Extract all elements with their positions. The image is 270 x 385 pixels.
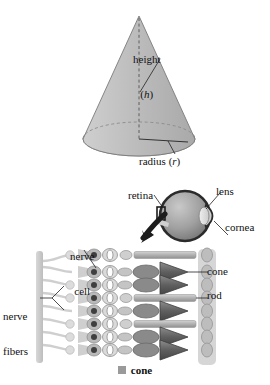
legend-swatch-cone bbox=[118, 366, 126, 374]
receptor-row bbox=[43, 340, 213, 360]
inner-nucleus bbox=[107, 332, 113, 342]
cone-height-label-line2: (h) bbox=[133, 89, 161, 101]
nerve-cell-label: nerve cell bbox=[70, 228, 94, 320]
receptor-inner-body bbox=[120, 294, 132, 303]
receptor-inner-body bbox=[118, 268, 132, 276]
inner-nucleus bbox=[107, 280, 113, 290]
nerve-cell-nucleus bbox=[91, 347, 97, 353]
nerve-cell-nucleus bbox=[91, 321, 97, 327]
epithelium-cell bbox=[202, 304, 213, 318]
nerve-fibers-label-line1: nerve bbox=[3, 311, 28, 323]
receptor-inner-body bbox=[120, 320, 132, 329]
cornea-label: cornea bbox=[225, 222, 254, 234]
nerve-fiber-branch bbox=[43, 267, 72, 272]
receptor-row bbox=[43, 327, 213, 347]
cone-inner-segment bbox=[133, 343, 159, 357]
receptor-row bbox=[43, 317, 213, 331]
figure-canvas: height (h) radius (r) bbox=[0, 0, 270, 385]
retina-leader-line bbox=[154, 195, 161, 205]
rod-callout-label: rod bbox=[207, 290, 222, 302]
receptor-inner-body bbox=[120, 251, 132, 260]
cone-outer-segment bbox=[160, 275, 188, 295]
cone-radius-label: radius (r) bbox=[139, 156, 180, 168]
inner-nucleus bbox=[107, 319, 113, 329]
bipolar-cell-body bbox=[66, 333, 74, 341]
receptor-inner-body bbox=[118, 307, 132, 315]
cone-inner-segment bbox=[133, 304, 159, 318]
cone-outer-segment bbox=[160, 340, 188, 360]
rod-outer-segment bbox=[134, 321, 196, 328]
nerve-cell-label-line1: nerve bbox=[70, 251, 94, 263]
nerve-fibers-leader-line bbox=[40, 286, 64, 310]
cone-inner-segment bbox=[133, 278, 159, 292]
nerve-fibers-label-line2: fibers bbox=[3, 346, 28, 358]
receptor-row bbox=[43, 262, 213, 282]
cone-inner-segment bbox=[133, 265, 159, 279]
epithelium-cell bbox=[202, 343, 213, 357]
rod-outer-segment bbox=[134, 252, 196, 259]
lens-shape bbox=[199, 207, 209, 225]
cone-inner-segment bbox=[133, 330, 159, 344]
cone-height-label-line1: height bbox=[133, 54, 161, 66]
synaptic-terminal bbox=[78, 344, 88, 356]
inner-nucleus bbox=[107, 293, 113, 303]
epithelium-cell bbox=[202, 317, 213, 331]
receptor-row bbox=[43, 248, 213, 262]
lens-label: lens bbox=[216, 186, 234, 198]
legend-label-cone: cone bbox=[131, 364, 152, 376]
cone-callout-label: cone bbox=[207, 266, 228, 278]
retina-label: retina bbox=[128, 190, 153, 202]
nerve-cell-label-line2: cell bbox=[70, 286, 94, 298]
inner-nucleus bbox=[107, 306, 113, 316]
receptor-inner-body bbox=[118, 346, 132, 354]
bipolar-cell-body bbox=[66, 320, 74, 328]
legend: cone bbox=[0, 364, 270, 376]
nerve-cell-nucleus bbox=[91, 334, 97, 340]
receptor-inner-body bbox=[118, 281, 132, 289]
receptor-inner-body bbox=[118, 333, 132, 341]
rod-outer-segment bbox=[134, 295, 196, 302]
synaptic-terminal bbox=[78, 331, 88, 343]
bipolar-cell-body bbox=[66, 346, 74, 354]
cone-outer-segment bbox=[160, 301, 188, 321]
epithelium-cell bbox=[202, 248, 213, 262]
inner-nucleus bbox=[107, 345, 113, 355]
cone-height-label: height (h) bbox=[133, 31, 161, 123]
epithelium-cell bbox=[202, 330, 213, 344]
